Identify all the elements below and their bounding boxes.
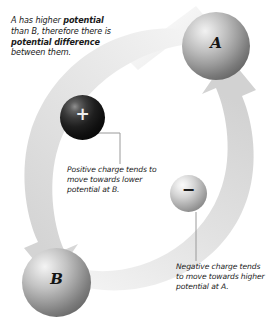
leader-line-positive (88, 133, 120, 164)
negative-charge-sphere (170, 175, 207, 212)
caption-intro-part2: than B, therefore there is (11, 26, 111, 36)
figure-canvas: B A + − A has higher potential than B, t… (0, 0, 274, 325)
caption-intro-part3: between them. (11, 47, 71, 57)
sphere-a (182, 12, 250, 80)
caption-negative-charge: Negative charge tends to move towards hi… (176, 262, 268, 292)
caption-intro-part1: A has higher (11, 15, 63, 25)
positive-charge-sphere (60, 95, 105, 140)
caption-potential-difference: A has higher potential than B, therefore… (11, 15, 123, 58)
sphere-b (22, 248, 91, 317)
caption-intro-bold-potential: potential (63, 15, 103, 25)
caption-intro-bold-potential-difference: potential difference (11, 37, 100, 47)
caption-positive-charge: Positive charge tends to move towards lo… (67, 165, 169, 195)
